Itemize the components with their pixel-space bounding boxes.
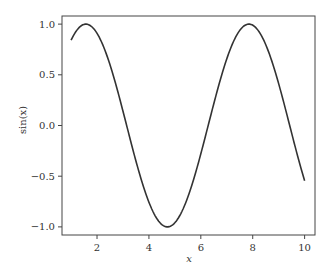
y-tick-label: 0.5	[39, 69, 55, 80]
x-tick-label: 2	[94, 242, 100, 253]
x-tick-label: 8	[250, 242, 256, 253]
plot-frame	[62, 16, 315, 235]
x-tick-label: 4	[146, 242, 152, 253]
y-tick-label: 1.0	[39, 19, 55, 30]
y-tick-label: −0.5	[31, 171, 55, 182]
sine-curve	[71, 24, 305, 227]
x-tick-label: 6	[198, 242, 204, 253]
y-tick-label: −1.0	[31, 221, 55, 232]
y-tick-label: 0.0	[39, 120, 55, 131]
x-tick-label: 10	[298, 242, 311, 253]
x-axis-label: x	[186, 253, 192, 264]
y-axis-ticks: 1.00.50.0−0.5−1.0	[31, 19, 62, 233]
chart-svg: 1.00.50.0−0.5−1.0 246810 x sin(x)	[0, 0, 331, 277]
x-axis-ticks: 246810	[94, 235, 311, 253]
y-axis-label: sin(x)	[17, 106, 28, 134]
